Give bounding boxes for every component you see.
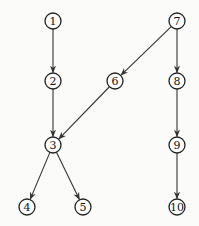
- node-1: 1: [45, 13, 61, 29]
- edge-3-to-4: [30, 152, 50, 199]
- directed-graph: 12345678910: [0, 0, 199, 226]
- node-label: 2: [50, 75, 57, 88]
- node-5: 5: [75, 199, 91, 215]
- node-2: 2: [45, 73, 61, 89]
- node-label: 4: [24, 201, 31, 214]
- edge-7-to-6: [121, 27, 171, 76]
- node-10: 10: [169, 199, 185, 215]
- node-label: 9: [174, 139, 181, 152]
- node-label: 7: [174, 15, 181, 28]
- node-4: 4: [19, 199, 35, 215]
- node-label: 5: [80, 201, 87, 214]
- nodes-layer: 12345678910: [19, 13, 185, 215]
- edges-layer: [30, 27, 177, 200]
- node-label: 3: [50, 139, 57, 152]
- node-6: 6: [107, 73, 123, 89]
- edge-3-to-5: [56, 152, 79, 199]
- node-8: 8: [169, 73, 185, 89]
- node-label: 10: [170, 201, 184, 214]
- node-label: 8: [174, 75, 181, 88]
- node-label: 6: [112, 75, 119, 88]
- node-3: 3: [45, 137, 61, 153]
- node-9: 9: [169, 137, 185, 153]
- edge-6-to-3: [59, 87, 110, 139]
- node-7: 7: [169, 13, 185, 29]
- node-label: 1: [50, 15, 57, 28]
